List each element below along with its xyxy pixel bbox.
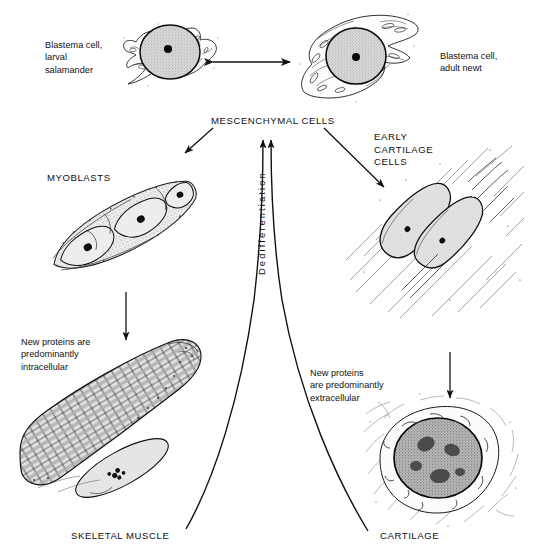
arrow-dedifferentiation-left (186, 140, 263, 529)
label-cartilage: CARTILAGE (380, 530, 500, 543)
diagram-canvas: Blastema cell, larval salamander Blastem… (0, 0, 534, 557)
label-dedifferentiation: Dedifferentiation (256, 171, 267, 275)
label-blastema-adult: Blastema cell, adult newt (440, 50, 534, 75)
arrow-layer (0, 0, 534, 557)
arrow-dedifferentiation-right (271, 140, 368, 531)
arrow-mesenchymal-to-myoblasts (185, 128, 213, 153)
label-myoblasts: MYOBLASTS (47, 172, 137, 185)
label-early-cartilage-cells: EARLY CARTILAGE CELLS (374, 131, 464, 169)
label-proteins-intracellular: New proteins are predominantly intracell… (21, 336, 136, 373)
label-blastema-larval: Blastema cell, larval salamander (45, 39, 155, 76)
label-mesenchymal-cells: MESCENCHYMAL CELLS (211, 115, 341, 128)
label-skeletal-muscle: SKELETAL MUSCLE (71, 530, 231, 543)
label-proteins-extracellular: New proteins are predominantly extracell… (310, 367, 425, 404)
